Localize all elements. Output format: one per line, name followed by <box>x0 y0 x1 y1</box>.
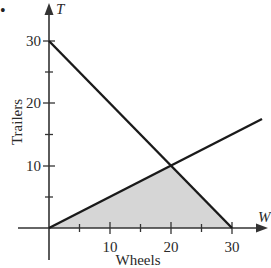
y-axis-arrow-icon <box>45 3 54 15</box>
shaded-region <box>49 166 232 228</box>
bullet-mark: • <box>0 2 6 19</box>
y-tick-label-30: 30 <box>26 33 41 49</box>
y-axis-variable: T <box>56 1 66 17</box>
chart-canvas: 10 20 30 10 20 30 W T Wheels Trailers • <box>0 0 271 268</box>
x-axis-variable: W <box>258 209 271 225</box>
y-tick-label-10: 10 <box>26 158 41 174</box>
x-tick-label-30: 30 <box>225 239 240 255</box>
y-axis-title: Trailers <box>9 99 25 145</box>
x-tick-label-20: 20 <box>164 239 179 255</box>
x-axis-title: Wheels <box>116 252 161 268</box>
y-tick-label-20: 20 <box>26 95 41 111</box>
